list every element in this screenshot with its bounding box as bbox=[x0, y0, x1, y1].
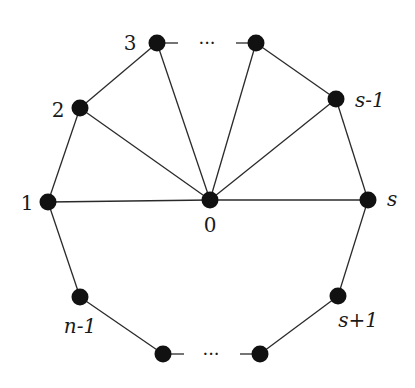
node-3 bbox=[149, 35, 166, 52]
label-node-0: 0 bbox=[204, 213, 217, 237]
label-node-1: 1 bbox=[21, 191, 34, 215]
label-node-s-plus-1: s+1 bbox=[338, 308, 378, 332]
ellipsis-bottom: ··· bbox=[202, 343, 219, 364]
label-node-s-minus-1: s-1 bbox=[355, 88, 385, 112]
node-2 bbox=[72, 100, 89, 117]
label-node-2: 2 bbox=[52, 98, 65, 122]
edge-0-2 bbox=[80, 108, 210, 200]
node-c bbox=[155, 346, 172, 363]
graph-diagram: ··· ··· 0 1 2 3 s-1 s s+1 n-1 bbox=[0, 0, 415, 388]
edge-s-1-s bbox=[336, 99, 368, 200]
edge-t-s-1 bbox=[256, 43, 336, 99]
node-0 bbox=[202, 192, 219, 209]
node-s+1 bbox=[330, 288, 347, 305]
label-node-n-minus-1: n-1 bbox=[64, 314, 96, 338]
node-s-1 bbox=[328, 91, 345, 108]
ellipsis-top: ··· bbox=[198, 32, 215, 53]
edge-0-1 bbox=[48, 200, 210, 202]
label-node-s: s bbox=[387, 187, 397, 211]
node-t bbox=[248, 35, 265, 52]
edge-0-s-1 bbox=[210, 99, 336, 200]
node-1 bbox=[40, 194, 57, 211]
label-node-3: 3 bbox=[124, 31, 137, 55]
edge-1-2 bbox=[48, 108, 80, 202]
edge-0-t bbox=[210, 43, 256, 200]
edge-s+1-b bbox=[260, 296, 338, 354]
edge-s-s+1 bbox=[338, 200, 368, 296]
node-b bbox=[252, 346, 269, 363]
edge-n-1-1 bbox=[48, 202, 80, 297]
node-n-1 bbox=[72, 289, 89, 306]
node-s bbox=[360, 192, 377, 209]
edge-2-3 bbox=[80, 43, 157, 108]
edge-0-3 bbox=[157, 43, 210, 200]
